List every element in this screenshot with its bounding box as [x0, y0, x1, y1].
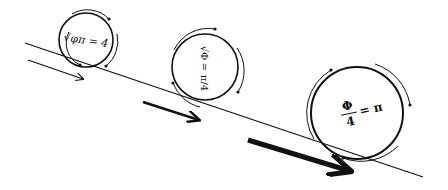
small-circle-group: √φπ = 4: [59, 10, 118, 67]
medium-circle-formula-eq: =: [199, 63, 210, 71]
large-circle: [311, 67, 403, 159]
large-circle-formula-den: 4: [345, 114, 356, 129]
large-circle-group: Φ 4 = π: [307, 64, 410, 161]
medium-arrow-icon: [143, 102, 199, 120]
medium-circle-group: √Φ = π/4: [172, 28, 244, 107]
small-circle-formula: √φπ = 4: [63, 31, 110, 50]
large-circle-formula-num: Φ: [341, 98, 354, 114]
rotation-arrow-icon: [307, 70, 331, 139]
small-arrow-icon: [28, 60, 83, 79]
medium-circle-formula-rhs: π/4: [199, 75, 210, 91]
medium-circle-formula-lhs: √Φ: [199, 46, 210, 61]
large-arrow-icon: [248, 140, 350, 171]
large-circle-formula-rhs: = π: [358, 100, 384, 119]
rolling-circles-diagram: √φπ = 4 √Φ = π/4 Φ 4 = π: [0, 0, 448, 190]
